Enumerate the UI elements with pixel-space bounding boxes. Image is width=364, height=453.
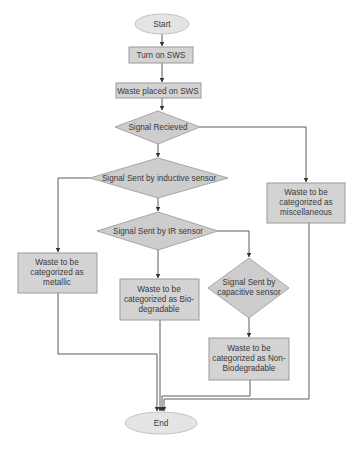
node-ir-sensor-label: Signal Sent by IR sensor [113,227,203,236]
node-biodegradable-label-line3: degradable [139,305,180,314]
node-inductive-sensor: Signal Sent by inductive sensor [90,158,228,198]
node-metallic-label-line2: categorized as [30,268,83,277]
node-capacitive-sensor-label-line1: Signal Sent by [223,278,277,287]
node-biodegradable-label-line1: Waste to be [137,285,181,294]
node-start: Start [135,14,189,34]
node-signal-received: Signal Recieved [115,111,200,144]
node-miscellaneous-label-line2: categorized as [279,198,332,207]
node-waste-placed-label: Waste placed on SWS [117,87,199,96]
node-miscellaneous: Waste to be categorized as miscellaneous [267,183,345,223]
node-miscellaneous-label-line1: Waste to be [284,188,328,197]
node-biodegradable-label-line2: categorized as Bio- [124,295,194,304]
node-capacitive-sensor: Signal Sent by capacitive sensor [208,258,289,318]
node-waste-placed: Waste placed on SWS [116,83,201,98]
node-capacitive-sensor-label-line2: capacitive sensor [217,288,281,297]
node-signal-received-label: Signal Recieved [128,123,188,132]
node-inductive-sensor-label: Signal Sent by inductive sensor [102,174,217,183]
node-non-biodegradable-label-line2: categorized as Non- [212,354,286,363]
node-metallic: Waste to be categorized as metallic [18,253,97,293]
node-miscellaneous-label-line3: miscellaneous [280,208,332,217]
node-non-biodegradable: Waste to be categorized as Non- Biodegra… [209,338,289,380]
node-metallic-label-line3: metallic [43,278,71,287]
node-ir-sensor: Signal Sent by IR sensor [97,212,218,250]
flowchart-canvas: Start Turn on SWS Waste placed on SWS Si… [0,0,364,453]
node-non-biodegradable-label-line3: Biodegradable [223,364,276,373]
node-start-label: Start [153,20,171,29]
edge-non-biodegradable-to-end [162,380,250,411]
node-end: End [125,412,197,434]
node-biodegradable: Waste to be categorized as Bio- degradab… [120,279,199,320]
edge-inductive-to-metallic [58,178,90,252]
node-turn-on-sws-label: Turn on SWS [137,51,186,60]
node-metallic-label-line1: Waste to be [35,258,79,267]
node-end-label: End [154,419,169,428]
node-non-biodegradable-label-line1: Waste to be [227,344,271,353]
node-turn-on-sws: Turn on SWS [129,47,193,63]
edge-ir-to-capacitive [218,231,249,257]
